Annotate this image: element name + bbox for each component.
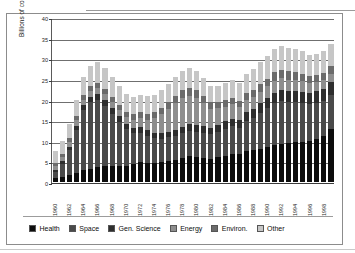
bar-stack <box>166 84 171 182</box>
bar-segment-health <box>328 129 333 182</box>
bar-stack <box>60 141 65 182</box>
x-tick-label: 1968 <box>109 204 115 216</box>
bar-segment-space <box>173 136 178 160</box>
x-axis-ticks: 1960196219641966196819701972197419761978… <box>52 186 335 216</box>
legend-item-health[interactable]: Health <box>29 225 60 232</box>
bar-segment-gen-science <box>187 124 192 131</box>
bar-segment-other <box>321 51 326 72</box>
y-tick-mark <box>49 184 52 185</box>
bar-segment-health <box>159 162 164 182</box>
bar-segment-environ <box>279 70 284 78</box>
x-tick-label: 1978 <box>179 204 185 216</box>
bar-segment-space <box>201 133 206 158</box>
legend-item-label: Environ. <box>222 225 248 232</box>
bar-stack <box>74 100 79 182</box>
x-tick-label: 1960 <box>52 204 58 216</box>
bar-segment-health <box>124 166 129 182</box>
bar-segment-gen-science <box>208 128 213 135</box>
bar-segment-other <box>88 66 93 87</box>
bar-segment-health <box>237 154 242 182</box>
bar-segment-other <box>187 68 192 88</box>
bar-segment-other <box>124 94 129 112</box>
legend-swatch-icon <box>108 225 115 232</box>
legend-item-space[interactable]: Space <box>69 225 99 232</box>
bar-stack <box>95 62 100 182</box>
bar-stack <box>53 151 58 182</box>
bar-segment-health <box>102 166 107 182</box>
bar-segment-other <box>201 78 206 96</box>
page-bottom-rule <box>0 249 355 250</box>
bar-segment-other <box>102 68 107 89</box>
bar-segment-environ <box>321 73 326 80</box>
bar-stack <box>293 49 298 182</box>
bar-segment-health <box>201 158 206 182</box>
legend-item-other[interactable]: Other <box>257 225 285 232</box>
bar-segment-space <box>237 128 242 155</box>
bar-segment-health <box>321 136 326 182</box>
legend-item-gen-science[interactable]: Gen. Science <box>108 225 161 232</box>
bar-series-group <box>53 19 334 182</box>
bar-segment-health <box>88 169 93 182</box>
bar-segment-health <box>74 173 79 182</box>
bar-segment-energy <box>265 86 270 98</box>
y-tick-label: 35 <box>32 37 48 43</box>
bar-segment-energy <box>251 97 256 109</box>
bar-segment-health <box>187 156 192 182</box>
bar-segment-other <box>293 49 298 72</box>
bar-segment-gen-science <box>201 126 206 133</box>
legend-item-label: Space <box>79 225 99 232</box>
bar-segment-other <box>159 90 164 107</box>
bar-stack <box>279 46 284 182</box>
legend-item-energy[interactable]: Energy <box>170 225 203 232</box>
bar-segment-environ <box>180 90 185 98</box>
bar-stack <box>215 86 220 183</box>
bar-segment-health <box>152 163 157 182</box>
bar-stack <box>244 74 249 182</box>
bar-segment-energy <box>201 103 206 126</box>
bar-segment-other <box>265 56 270 79</box>
bar-segment-gen-science <box>215 125 220 132</box>
bar-segment-other <box>237 83 242 101</box>
legend-item-label: Other <box>267 225 285 232</box>
y-tick-mark <box>49 19 52 20</box>
bar-segment-gen-science <box>307 93 312 104</box>
bar-segment-energy <box>159 114 164 133</box>
bar-segment-energy <box>328 74 333 83</box>
bar-segment-health <box>314 139 319 182</box>
bar-segment-other <box>173 77 178 96</box>
page-top-rule <box>86 10 355 11</box>
bar-segment-gen-science <box>244 112 249 121</box>
bar-stack <box>328 44 333 182</box>
bar-segment-space <box>131 133 136 164</box>
bar-segment-space <box>180 133 185 157</box>
bar-stack <box>159 90 164 182</box>
y-tick-mark <box>49 122 52 123</box>
bar-segment-other <box>152 95 157 112</box>
bar-stack <box>286 48 291 182</box>
bar-segment-space <box>166 137 171 160</box>
bar-segment-space <box>159 139 164 162</box>
bar-segment-environ <box>314 75 319 82</box>
bar-segment-space <box>223 129 228 156</box>
bar-stack <box>152 95 157 182</box>
bar-segment-other <box>286 48 291 72</box>
bar-stack <box>145 96 150 182</box>
legend-item-label: Health <box>40 225 60 232</box>
bar-segment-health <box>293 142 298 182</box>
bar-stack <box>258 62 263 182</box>
bar-segment-gen-science <box>194 125 199 132</box>
legend-swatch-icon <box>211 225 218 232</box>
bar-segment-energy <box>293 80 298 91</box>
bar-segment-energy <box>321 80 326 89</box>
legend-swatch-icon <box>170 225 177 232</box>
bar-segment-space <box>124 129 129 166</box>
bar-segment-gen-science <box>258 103 263 112</box>
bar-segment-space <box>321 101 326 136</box>
bar-segment-gen-science <box>223 121 228 128</box>
bar-segment-health <box>81 170 86 182</box>
bar-segment-gen-science <box>321 89 326 101</box>
bar-segment-space <box>81 110 86 170</box>
bar-stack <box>237 83 242 182</box>
legend-item-environ[interactable]: Environ. <box>211 225 247 232</box>
bar-segment-environ <box>244 93 249 100</box>
